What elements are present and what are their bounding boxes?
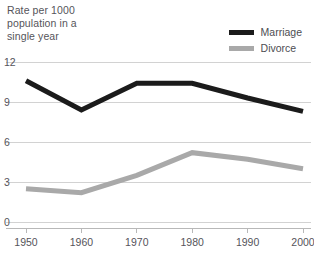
- gridlines: [6, 62, 311, 222]
- x-tick-label: 1960: [70, 236, 94, 248]
- y-tick-label: 0: [4, 216, 10, 228]
- x-tick-label: 2000: [291, 236, 314, 248]
- x-tick-label: 1950: [14, 236, 38, 248]
- series-line-divorce: [26, 153, 303, 193]
- x-tick-label: 1970: [125, 236, 149, 248]
- plot-area: 036912 195019601970198019902000: [0, 0, 314, 257]
- x-tick-label: 1990: [236, 236, 260, 248]
- y-tick-label: 9: [4, 96, 10, 108]
- x-axis-tick-labels: 195019601970198019902000: [14, 236, 314, 248]
- data-series-lines: [26, 81, 303, 193]
- marriage-divorce-rate-chart: Rate per 1000 population in a single yea…: [0, 0, 314, 257]
- y-tick-label: 12: [4, 56, 16, 68]
- series-line-marriage: [26, 81, 303, 112]
- x-tick-label: 1980: [181, 236, 205, 248]
- y-tick-label: 3: [4, 176, 10, 188]
- x-axis: [6, 228, 311, 233]
- y-tick-label: 6: [4, 136, 10, 148]
